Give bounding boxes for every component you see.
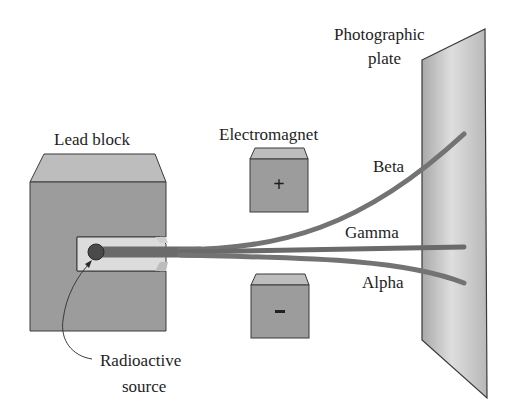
magnet-top-face <box>250 148 308 159</box>
label-lead-block: Lead block <box>54 130 130 149</box>
electromagnet-positive: + <box>250 148 308 212</box>
lead-block-top <box>30 154 166 182</box>
photographic-plate <box>422 29 487 398</box>
minus-sign <box>275 310 285 313</box>
radiation-deflection-diagram: + Lead block Electromagnet Photographic … <box>0 0 517 415</box>
label-gamma: Gamma <box>345 223 399 242</box>
magnet-top-face <box>251 274 309 285</box>
plus-sign: + <box>273 173 284 195</box>
label-alpha: Alpha <box>362 273 404 292</box>
label-electromagnet: Electromagnet <box>219 125 318 144</box>
lead-block <box>30 154 168 331</box>
label-source: source <box>122 377 166 396</box>
label-photographic-plate-line2: plate <box>368 49 401 68</box>
label-beta: Beta <box>373 157 405 176</box>
electromagnet-negative <box>251 274 309 338</box>
label-radioactive: Radioactive <box>100 351 181 370</box>
plate-face <box>422 29 487 398</box>
radioactive-source-dot <box>88 244 104 260</box>
label-photographic-plate-line1: Photographic <box>334 25 425 44</box>
